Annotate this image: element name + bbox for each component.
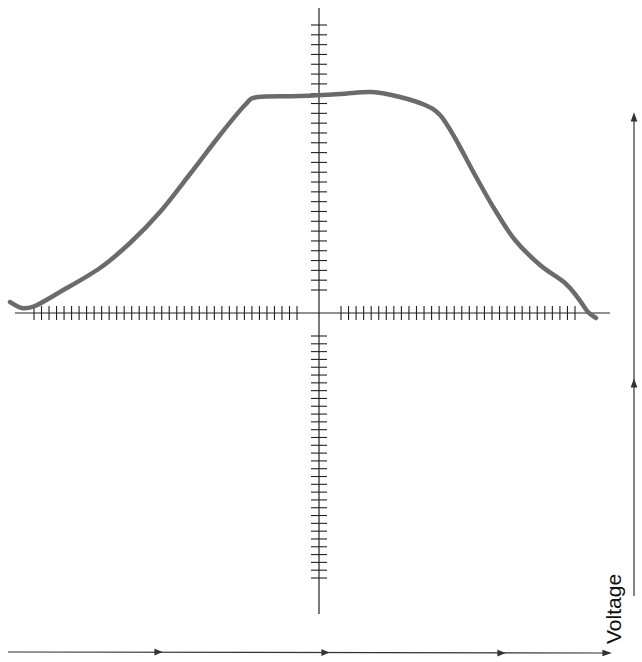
arrowhead-icon bbox=[155, 650, 161, 655]
voltage-pulse-curve bbox=[10, 92, 596, 318]
voltage-axis-arrow bbox=[632, 114, 637, 596]
voltage-axis-label: Voltage bbox=[602, 548, 626, 644]
arrowhead-icon bbox=[322, 650, 328, 655]
arrowhead-icon bbox=[498, 651, 504, 656]
pulse-diagram bbox=[0, 0, 642, 662]
arrowhead-icon bbox=[632, 380, 637, 387]
arrowhead-icon bbox=[632, 114, 637, 121]
time-axis-arrow bbox=[8, 650, 610, 656]
arrowhead-icon bbox=[603, 651, 610, 656]
